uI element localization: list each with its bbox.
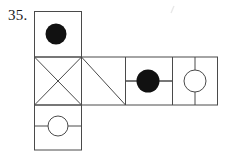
open-circle-icon: [48, 116, 68, 136]
top-square-group: [46, 24, 67, 45]
filled-circle-icon: [137, 70, 160, 93]
middle-cell-1-x-cross: [35, 57, 82, 105]
middle-cell-3-group: [126, 70, 173, 93]
open-circle-icon: [184, 70, 206, 92]
middle-cell-4-group: [184, 57, 206, 105]
diagonal-tl-br-icon: [82, 57, 126, 105]
bottom-square-group: [35, 116, 82, 136]
cube-net-figure: [0, 0, 230, 159]
scan-speck-icon: [171, 6, 174, 13]
figure-container: 35.: [0, 0, 230, 159]
filled-circle-icon: [46, 24, 67, 45]
middle-cell-2-diagonal: [82, 57, 126, 105]
